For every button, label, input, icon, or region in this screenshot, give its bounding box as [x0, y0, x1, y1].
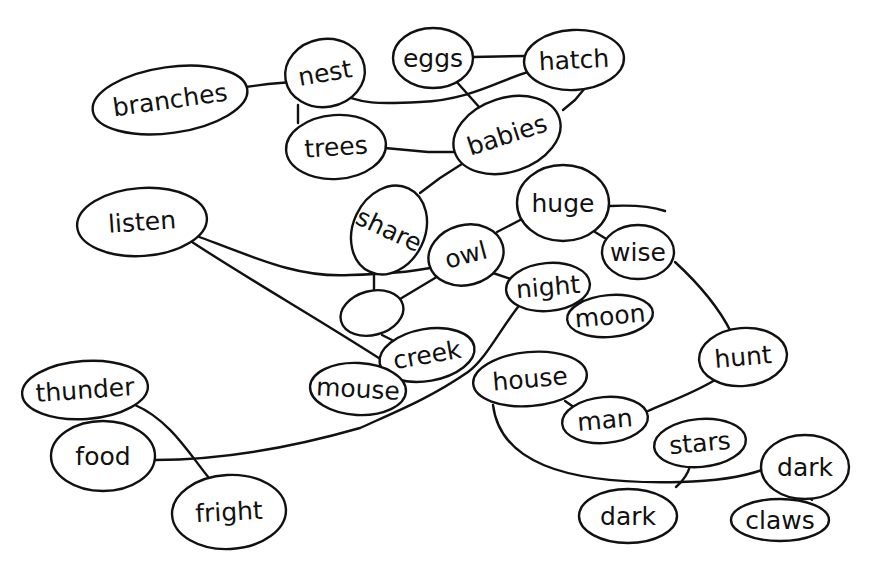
edge-hunt-man — [648, 380, 715, 411]
edge-hatch-babies — [563, 88, 585, 110]
edge-owl-huge — [497, 218, 524, 232]
node-label: food — [75, 442, 130, 471]
node-fright: fright — [170, 472, 288, 552]
edge-wise-hunt — [675, 262, 731, 332]
node-label: hatch — [538, 44, 610, 77]
edge-trees-babies — [385, 148, 455, 152]
edge-huge-edge-tail — [610, 206, 665, 211]
node-branches: branches — [88, 56, 252, 143]
node-label: moon — [573, 298, 646, 333]
node-blank — [335, 283, 408, 342]
node-huge: huge — [517, 165, 609, 241]
node-label: listen — [107, 205, 177, 239]
node-dark-right: dark — [761, 435, 849, 499]
node-wise: wise — [602, 225, 674, 279]
edge-owl-blank — [395, 275, 440, 302]
node-label: night — [515, 270, 582, 305]
node-label: claws — [745, 506, 814, 535]
node-trees: trees — [284, 112, 388, 183]
node-label: dark — [600, 502, 656, 531]
node-label: trees — [303, 130, 368, 163]
node-hunt: hunt — [697, 324, 790, 389]
node-claws: claws — [731, 499, 829, 541]
node-label: huge — [532, 189, 595, 218]
node-hatch: hatch — [522, 27, 625, 92]
node-nest: nest — [280, 33, 371, 114]
node-label: stars — [668, 426, 732, 460]
node-owl: owl — [422, 216, 511, 294]
node-man: man — [560, 393, 650, 446]
edge-eggs-babies — [455, 80, 480, 108]
node-food: food — [51, 421, 155, 491]
node-label: man — [576, 403, 634, 437]
edge-babies-share — [420, 162, 465, 193]
node-label: fright — [195, 496, 264, 529]
node-label: hunt — [713, 340, 773, 374]
nodes-layer: branchesnesteggshatchtreesbabieslistensh… — [20, 27, 849, 552]
edge-blank-creek — [382, 335, 392, 340]
node-label: wise — [610, 238, 666, 267]
node-label: mouse — [315, 372, 400, 405]
edge-eggs-hatch — [473, 56, 524, 57]
node-stars: stars — [652, 415, 748, 471]
node-label: eggs — [403, 44, 463, 73]
node-dark-bottom: dark — [579, 489, 677, 543]
node-thunder: thunder — [20, 357, 150, 424]
node-listen: listen — [75, 184, 209, 261]
node-eggs: eggs — [393, 28, 473, 88]
node-ellipse — [335, 283, 408, 342]
node-house: house — [471, 347, 589, 411]
concept-map-canvas: branchesnesteggshatchtreesbabieslistensh… — [0, 0, 886, 573]
edge-stars-dark-bottom — [676, 466, 690, 487]
node-label: dark — [777, 453, 833, 482]
